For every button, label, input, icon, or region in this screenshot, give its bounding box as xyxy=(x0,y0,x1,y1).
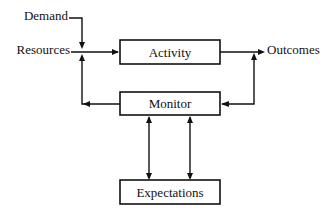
monitor-right-arrowhead xyxy=(221,101,229,107)
outcomes-arrowhead xyxy=(258,49,265,55)
feedback-up-arrowhead xyxy=(79,54,85,61)
demand-label: Demand xyxy=(24,8,69,23)
activity-label: Activity xyxy=(149,45,192,60)
monitor-to-resources-connector xyxy=(82,57,120,104)
right-up-arrowhead xyxy=(187,116,193,123)
outcomes-up-arrowhead xyxy=(251,53,257,60)
demand-arrowhead xyxy=(79,42,85,49)
diagram-canvas: Activity Monitor Expectations Demand Res… xyxy=(0,0,336,219)
outcomes-label: Outcomes xyxy=(267,42,320,57)
monitor-left-arrowhead xyxy=(83,101,90,107)
demand-connector xyxy=(69,18,82,46)
monitor-label: Monitor xyxy=(149,96,192,111)
left-down-arrowhead xyxy=(146,173,152,180)
resources-arrowhead xyxy=(112,49,119,55)
resources-label: Resources xyxy=(17,42,70,57)
right-down-arrowhead xyxy=(187,173,193,180)
left-up-arrowhead xyxy=(146,116,152,123)
expectations-label: Expectations xyxy=(136,185,203,200)
outcomes-to-monitor-connector xyxy=(222,55,254,104)
